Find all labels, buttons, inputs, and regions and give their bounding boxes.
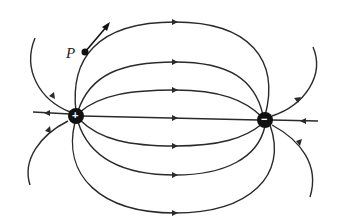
negative-charge: − — [257, 112, 273, 128]
negative-charge-sign: − — [261, 113, 267, 125]
arrow-icon — [172, 19, 178, 25]
positive-charge-sign: + — [72, 109, 78, 121]
arrow-icon — [172, 210, 178, 216]
arrow-icon — [172, 115, 178, 121]
field-line-right-upper — [272, 47, 317, 116]
field-line-right-horizontal — [272, 120, 318, 121]
field-line-left-horizontal — [33, 112, 70, 114]
field-line-upper-inner — [80, 90, 262, 117]
field-line-lower-inner — [80, 120, 262, 146]
arrow-icon — [44, 110, 50, 116]
field-line-left-upper — [31, 38, 70, 112]
arrow-icon — [172, 143, 178, 149]
field-line-right-lower — [272, 125, 313, 197]
positive-charge: + — [68, 108, 84, 124]
arrow-icon — [172, 87, 178, 93]
arrow-icon — [45, 126, 51, 133]
point-p-label: P — [65, 45, 75, 61]
arrow-icon — [49, 92, 55, 99]
arrow-icon — [172, 172, 178, 178]
field-line-lower-middle — [78, 122, 265, 175]
arrow-icon — [172, 59, 178, 65]
field-line-upper-middle — [78, 62, 263, 115]
dipole-field-diagram: P + − — [0, 0, 345, 218]
arrow-icon — [300, 118, 306, 124]
field-line-center — [82, 116, 258, 120]
